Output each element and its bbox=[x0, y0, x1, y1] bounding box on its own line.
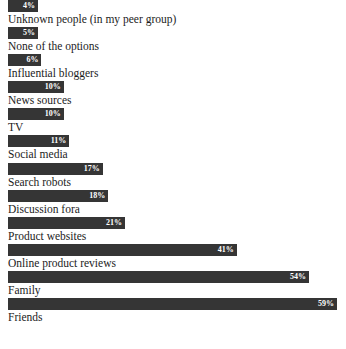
bar-row: 17%Search robots bbox=[0, 163, 346, 190]
bar-category-label: None of the options bbox=[8, 39, 99, 54]
bar-row: 5%None of the options bbox=[0, 27, 346, 54]
bar-track: 17% bbox=[0, 163, 346, 175]
bar-category-label: Search robots bbox=[8, 175, 71, 190]
bar-row: 59%Friends bbox=[0, 298, 346, 325]
bar-category-label: News sources bbox=[8, 93, 72, 108]
bar-value-label: 54% bbox=[290, 271, 306, 283]
bar-track: 10% bbox=[0, 108, 346, 120]
bar-track: 4% bbox=[0, 0, 346, 12]
bar-fill: 6% bbox=[8, 54, 41, 66]
bar-value-label: 59% bbox=[318, 298, 334, 310]
bar-category-label: Social media bbox=[8, 147, 68, 162]
bar-row: 41%Online product reviews bbox=[0, 244, 346, 271]
bar-row: 21%Product websites bbox=[0, 217, 346, 244]
bar-category-label: Product websites bbox=[8, 229, 86, 244]
bar-track: 41% bbox=[0, 244, 346, 256]
bar-fill: 54% bbox=[8, 271, 309, 283]
bar-track: 21% bbox=[0, 217, 346, 229]
bar-fill: 21% bbox=[8, 217, 125, 229]
bar-category-label: Discussion fora bbox=[8, 202, 80, 217]
bar-row: 54%Family bbox=[0, 271, 346, 298]
bar-fill: 11% bbox=[8, 135, 69, 147]
bar-row: 4%Unknown people (in my peer group) bbox=[0, 0, 346, 27]
bar-track: 54% bbox=[0, 271, 346, 283]
bar-value-label: 5% bbox=[23, 27, 35, 39]
bar-category-label: Online product reviews bbox=[8, 256, 116, 271]
bar-category-label: Friends bbox=[8, 310, 43, 325]
bar-row: 10%News sources bbox=[0, 81, 346, 108]
bar-category-label: Unknown people (in my peer group) bbox=[8, 12, 176, 27]
bar-fill: 59% bbox=[8, 298, 337, 310]
bar-fill: 10% bbox=[8, 108, 64, 120]
horizontal-bar-chart: 4%Unknown people (in my peer group)5%Non… bbox=[0, 0, 346, 349]
bar-list: 4%Unknown people (in my peer group)5%Non… bbox=[0, 0, 346, 325]
bar-value-label: 4% bbox=[23, 0, 35, 12]
bar-fill: 18% bbox=[8, 190, 108, 202]
bar-value-label: 10% bbox=[45, 108, 61, 120]
bar-value-label: 10% bbox=[45, 81, 61, 93]
bar-value-label: 21% bbox=[106, 217, 122, 229]
bar-value-label: 41% bbox=[218, 244, 234, 256]
bar-track: 59% bbox=[0, 298, 346, 310]
bar-track: 10% bbox=[0, 81, 346, 93]
bar-track: 11% bbox=[0, 135, 346, 147]
bar-value-label: 11% bbox=[51, 135, 67, 147]
bar-fill: 10% bbox=[8, 81, 64, 93]
bar-row: 11%Social media bbox=[0, 135, 346, 162]
bar-track: 18% bbox=[0, 190, 346, 202]
bar-row: 10%TV bbox=[0, 108, 346, 135]
bar-row: 18%Discussion fora bbox=[0, 190, 346, 217]
bar-value-label: 6% bbox=[26, 54, 38, 66]
bar-track: 6% bbox=[0, 54, 346, 66]
bar-value-label: 17% bbox=[84, 163, 100, 175]
bar-fill: 4% bbox=[8, 0, 38, 12]
bar-track: 5% bbox=[0, 27, 346, 39]
bar-fill: 17% bbox=[8, 163, 103, 175]
bar-fill: 41% bbox=[8, 244, 237, 256]
bar-row: 6%Influential bloggers bbox=[0, 54, 346, 81]
bar-category-label: Influential bloggers bbox=[8, 66, 98, 81]
bar-fill: 5% bbox=[8, 27, 38, 39]
bar-value-label: 18% bbox=[89, 190, 105, 202]
bar-category-label: TV bbox=[8, 120, 23, 135]
bar-category-label: Family bbox=[8, 283, 41, 298]
